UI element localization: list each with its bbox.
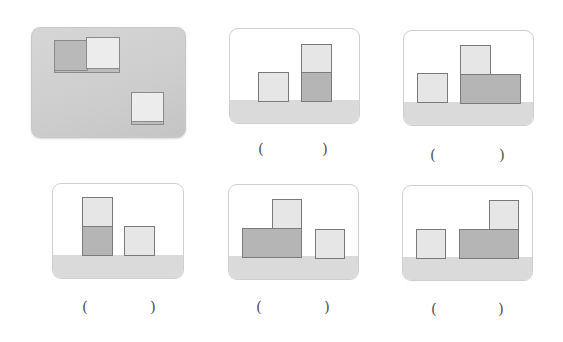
light-cube bbox=[315, 229, 345, 259]
option-d-panel[interactable] bbox=[228, 184, 359, 280]
light-cube bbox=[417, 73, 448, 103]
answer-paren-open: ( bbox=[258, 140, 264, 158]
dark-cube bbox=[82, 226, 113, 256]
light-cube bbox=[124, 226, 155, 256]
floor bbox=[230, 100, 359, 123]
option-a-panel[interactable] bbox=[229, 28, 360, 124]
dark-block-wide bbox=[459, 229, 519, 259]
reference-light-cube-bottom bbox=[131, 92, 164, 122]
light-cube bbox=[489, 200, 519, 230]
answer-paren-close: ) bbox=[498, 300, 504, 318]
floor bbox=[53, 255, 183, 278]
answer-paren-close: ) bbox=[499, 146, 505, 164]
answer-paren-open: ( bbox=[431, 300, 437, 318]
dark-cube bbox=[301, 72, 332, 102]
dark-block-wide bbox=[242, 228, 302, 258]
option-e-panel[interactable] bbox=[402, 185, 533, 281]
answer-paren-close: ) bbox=[322, 140, 328, 158]
reference-dark-cube bbox=[54, 40, 88, 71]
light-cube bbox=[460, 45, 491, 75]
option-c-panel[interactable] bbox=[52, 183, 184, 279]
answer-paren-close: ) bbox=[324, 298, 330, 316]
light-cube bbox=[82, 197, 113, 227]
answer-paren-close: ) bbox=[150, 298, 156, 316]
option-b-panel[interactable] bbox=[403, 30, 534, 126]
light-cube bbox=[258, 72, 289, 102]
answer-paren-open: ( bbox=[256, 298, 262, 316]
reference-light-cube-top bbox=[86, 37, 120, 69]
light-cube bbox=[416, 229, 446, 259]
answer-paren-open: ( bbox=[82, 298, 88, 316]
floor bbox=[229, 256, 358, 279]
reference-panel bbox=[31, 27, 186, 138]
light-cube bbox=[272, 199, 302, 229]
floor bbox=[403, 257, 532, 280]
floor bbox=[404, 102, 533, 125]
dark-block-wide bbox=[460, 74, 521, 104]
light-cube bbox=[301, 44, 332, 73]
answer-paren-open: ( bbox=[430, 146, 436, 164]
